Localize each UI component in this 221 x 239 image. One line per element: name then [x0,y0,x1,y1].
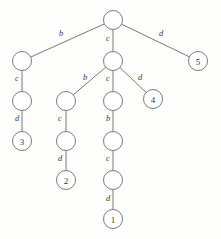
node-label: 4 [151,95,156,105]
tree-internal-node [104,52,123,71]
node-label: 2 [64,176,69,186]
edge-label: b [106,113,110,123]
edge-label: d [58,153,63,163]
tree-diagram-figure: 54321 bcdcbcddcbdcd [0,0,221,239]
tree-internal-node [104,171,123,190]
edge-label: c [58,113,62,123]
edge-label: b [83,72,87,82]
tree-edge [122,24,190,57]
edge-label: c [15,73,19,83]
edge-label: c [106,33,110,43]
tree-internal-node [57,92,76,111]
tree-diagram-canvas: 54321 bcdcbcddcbdcd [0,0,221,239]
edge-label: d [159,28,164,38]
edge-label: d [106,193,111,203]
node-label: 1 [111,215,116,225]
node-label: 3 [20,137,25,147]
tree-edge [120,68,146,93]
tree-internal-node [13,52,32,71]
edge-label: c [106,153,110,163]
tree-edge [31,24,105,57]
tree-edge [73,67,106,95]
edge-label: b [59,28,63,38]
edge-label: d [15,113,20,123]
tree-internal-node [57,132,76,151]
edge-label: d [138,72,143,82]
tree-internal-node [104,92,123,111]
edge-label: c [106,73,110,83]
node-label: 5 [196,57,201,67]
tree-internal-node [104,11,123,30]
tree-internal-node [104,132,123,151]
tree-internal-node [13,92,32,111]
